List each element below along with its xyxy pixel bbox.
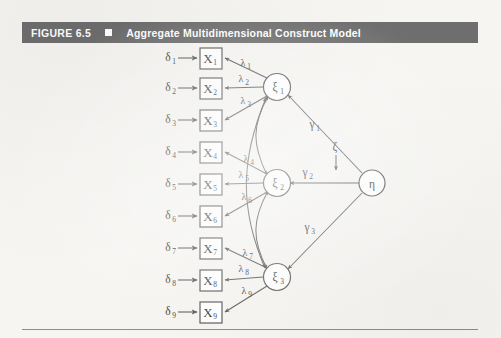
loading-arrow: [225, 96, 267, 120]
gamma-label: γ: [308, 118, 314, 131]
loading-label-sub: 4: [250, 158, 254, 167]
error-label: δ: [165, 273, 170, 285]
indicator-label: X: [203, 113, 213, 128]
loading-label: λ: [239, 263, 244, 274]
error-label-sub: 7: [172, 247, 176, 256]
dimension-label: ξ: [272, 177, 277, 190]
latent-node: η: [359, 170, 385, 196]
latent-label: η: [369, 178, 375, 191]
error-label-sub: 9: [172, 311, 176, 320]
gamma-label: γ: [301, 166, 307, 179]
loading-label-sub: 9: [248, 290, 252, 299]
loading-label-sub: 3: [247, 100, 251, 109]
error-label: δ: [165, 305, 170, 317]
error-label-sub: 4: [172, 151, 176, 160]
loading-label-sub: 7: [249, 252, 253, 261]
indicator-row: δ 1 X 1: [165, 48, 222, 69]
filled-square-icon: [105, 29, 112, 36]
error-label: δ: [165, 145, 170, 157]
error-label: δ: [165, 241, 170, 253]
indicator-row: δ 8 X 8: [165, 270, 222, 291]
indicator-label-sub: 8: [213, 280, 217, 289]
error-label: δ: [165, 51, 170, 63]
gamma-label: γ: [303, 221, 309, 234]
error-label-sub: 6: [172, 215, 176, 224]
error-label: δ: [165, 177, 170, 189]
gamma-label-sub: 2: [309, 172, 313, 181]
indicator-row: δ 4 X 4: [165, 142, 222, 163]
indicator-row: δ 7 X 7: [165, 238, 222, 259]
loading-label: λ: [239, 169, 244, 180]
indicator-label: X: [203, 273, 213, 288]
indicator-label-sub: 9: [213, 312, 217, 321]
footer-rule: [22, 329, 478, 330]
loading-label-sub: 2: [245, 78, 249, 87]
loading-label-sub: 6: [248, 196, 252, 205]
indicator-label: X: [203, 209, 213, 224]
gamma-path: [288, 95, 362, 173]
indicator-label-sub: 1: [213, 58, 217, 67]
loading-arrow: [225, 87, 263, 88]
indicator-label: X: [203, 51, 213, 66]
indicator-label: X: [203, 81, 213, 96]
loading-arrow: [225, 58, 267, 78]
indicator-label: X: [203, 241, 213, 256]
loading-label: λ: [243, 247, 248, 258]
indicator-label-sub: 7: [213, 248, 217, 257]
indicator-row: δ 5 X 5: [165, 174, 222, 195]
error-label: δ: [165, 81, 170, 93]
dimension-label: ξ: [272, 271, 277, 284]
figure-number: FIGURE 6.5: [31, 27, 91, 39]
dimension-label: ξ: [272, 81, 277, 94]
error-label-sub: 5: [172, 183, 176, 192]
indicator-label-sub: 2: [213, 88, 217, 97]
figure-page: FIGURE 6.5 Aggregate Multidimensional Co…: [0, 0, 501, 338]
error-label-sub: 2: [172, 87, 176, 96]
indicator-label-sub: 6: [213, 216, 217, 225]
error-label: δ: [165, 209, 170, 221]
indicator-row: δ 6 X 6: [165, 206, 222, 227]
loading-label-sub: 8: [245, 268, 249, 277]
gamma-path: [288, 193, 362, 269]
correlation-arc: [256, 191, 268, 269]
error-label: δ: [165, 113, 170, 125]
dimension-label-sub: 1: [280, 87, 284, 96]
loading-arrow: [225, 183, 263, 184]
loading-label: λ: [242, 191, 247, 202]
disturbance-label: ζ: [333, 140, 338, 153]
error-label-sub: 3: [172, 119, 176, 128]
loading-label: λ: [242, 285, 247, 296]
figure-title: Aggregate Multidimensional Construct Mod…: [126, 27, 361, 39]
indicator-label: X: [203, 177, 213, 192]
disturbance-group: ζ: [333, 140, 338, 170]
figure-header-bar: FIGURE 6.5 Aggregate Multidimensional Co…: [22, 22, 478, 43]
gamma-label-sub: 3: [311, 227, 315, 236]
path-diagram: δ 1 X 1 δ 2 X 2 δ 3 X: [0, 0, 501, 338]
indicator-rows: δ 1 X 1 δ 2 X 2 δ 3 X: [165, 48, 222, 323]
indicator-label-sub: 4: [213, 152, 217, 161]
error-label-sub: 1: [172, 57, 176, 66]
indicator-label: X: [203, 305, 213, 320]
indicator-row: δ 2 X 2: [165, 78, 222, 99]
gamma-label-sub: 1: [316, 124, 320, 133]
indicator-row: δ 9 X 9: [165, 302, 222, 323]
loading-arrow: [225, 277, 263, 280]
loading-label: λ: [241, 95, 246, 106]
indicator-row: δ 3 X 3: [165, 110, 222, 131]
loading-label: λ: [241, 57, 246, 68]
loading-label-sub: 1: [247, 62, 251, 71]
dimension-label-sub: 3: [280, 277, 284, 286]
dimension-nodes: ξ 1 ξ 2 ξ 3: [264, 74, 291, 291]
structural-path-labels: γ 1 γ 2 γ 3: [301, 118, 320, 236]
dimension-label-sub: 2: [280, 183, 284, 192]
indicator-label: X: [203, 145, 213, 160]
loading-label: λ: [239, 73, 244, 84]
indicator-label-sub: 5: [213, 184, 217, 193]
error-label-sub: 8: [172, 279, 176, 288]
indicator-label-sub: 3: [213, 120, 217, 129]
structural-paths: [288, 95, 362, 269]
